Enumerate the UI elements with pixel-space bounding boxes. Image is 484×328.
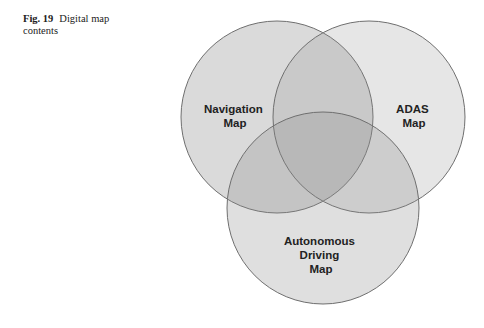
- autonomous-driving-map-circle: [227, 112, 419, 304]
- venn-diagram: Navigation Map ADAS Map Autonomous Drivi…: [0, 0, 484, 328]
- venn-circles: [181, 21, 465, 304]
